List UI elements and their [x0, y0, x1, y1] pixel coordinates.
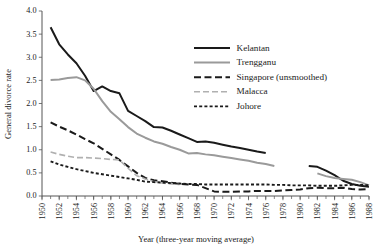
- x-axis-title: Year (three-year moving average): [138, 234, 254, 244]
- y-tick-label: 1.0: [26, 145, 36, 154]
- x-tick-label: 1980: [296, 203, 305, 219]
- legend-label-singapore-unsmoothed: Singapore (unsmoothed): [237, 72, 328, 82]
- x-tick-label: 1964: [158, 203, 167, 219]
- legend-label-malacca: Malacca: [237, 86, 268, 96]
- x-tick-label: 1960: [124, 203, 133, 219]
- y-tick-label: 4.0: [26, 6, 36, 15]
- x-tick-label: 1966: [176, 203, 185, 219]
- divorce-rate-chart-figure: 0.00.51.01.52.02.53.03.54.0 195019521954…: [0, 0, 376, 247]
- x-tick-label: 1986: [348, 203, 357, 219]
- y-tick-label: 1.5: [26, 122, 36, 131]
- x-tick-label: 1984: [331, 203, 340, 219]
- legend-label-trengganu: Trengganu: [237, 57, 277, 67]
- y-tick-label: 3.5: [26, 30, 36, 39]
- x-tick-label: 1974: [245, 203, 254, 219]
- x-tick-label: 1972: [227, 203, 236, 219]
- x-tick-label: 1950: [38, 203, 47, 219]
- x-tick-label: 1952: [55, 203, 64, 219]
- x-tick-label: 1988: [365, 203, 374, 219]
- legend-label-johore: Johore: [237, 101, 262, 111]
- legend-label-kelantan: Kelantan: [237, 43, 271, 53]
- x-tick-label: 1954: [72, 203, 81, 219]
- y-tick-label: 2.0: [26, 99, 36, 108]
- x-tick-label: 1968: [193, 203, 202, 219]
- x-tick-label: 1978: [279, 203, 288, 219]
- x-tick-label: 1970: [210, 203, 219, 219]
- x-tick-label: 1982: [313, 203, 322, 219]
- x-tick-label: 1976: [262, 203, 271, 219]
- chart-canvas: 0.00.51.01.52.02.53.03.54.0 195019521954…: [0, 0, 376, 247]
- y-tick-label: 0.5: [26, 168, 36, 177]
- y-axis-title: General divorce rate: [3, 69, 13, 139]
- x-tick-label: 1956: [90, 203, 99, 219]
- y-tick-label: 3.0: [26, 53, 36, 62]
- y-tick-label: 0.0: [26, 191, 36, 200]
- x-tick-label: 1958: [107, 203, 116, 219]
- x-tick-label: 1962: [141, 203, 150, 219]
- y-tick-label: 2.5: [26, 76, 36, 85]
